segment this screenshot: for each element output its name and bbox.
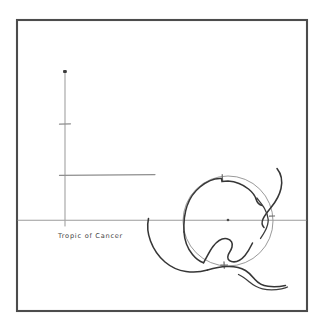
border-frame <box>17 20 307 311</box>
hand-drawn-map-sketch: Tropic of Cancer <box>0 0 321 326</box>
axis-tick-lower-long <box>60 175 156 176</box>
sketch-page: Tropic of Cancer <box>0 0 321 326</box>
island-center-dot <box>227 219 230 222</box>
tropic-of-cancer-label: Tropic of Cancer <box>57 232 123 240</box>
axis-top-dot-square <box>63 70 66 73</box>
